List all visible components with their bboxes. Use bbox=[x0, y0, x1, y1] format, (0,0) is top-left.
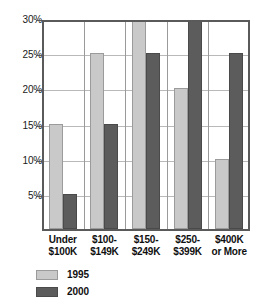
legend-label: 1995 bbox=[67, 270, 89, 280]
bar-1995-1 bbox=[49, 124, 63, 230]
bar-1995-4 bbox=[174, 88, 188, 229]
x-axis-label-line: or More bbox=[204, 246, 254, 258]
legend-swatch-icon bbox=[36, 270, 58, 280]
x-axis-label: $400Kor More bbox=[204, 234, 254, 258]
bars-layer bbox=[44, 22, 248, 229]
bar-2000-5 bbox=[229, 53, 243, 229]
bar-2000-4 bbox=[188, 20, 202, 229]
plot-area bbox=[42, 20, 250, 231]
legend-item-2000: 2000 bbox=[36, 285, 89, 299]
bar-2000-3 bbox=[146, 53, 160, 229]
y-axis: 30%25%20%15%10%5% bbox=[0, 0, 42, 231]
bar-1995-3 bbox=[132, 20, 146, 229]
bar-2000-2 bbox=[104, 124, 118, 230]
legend-label: 2000 bbox=[67, 287, 89, 297]
x-axis-labels: Under$100K$100-$149K$150-$249K$250-$399K… bbox=[42, 234, 250, 264]
bar-chart: 30%25%20%15%10%5% Under$100K$100-$149K$1… bbox=[0, 0, 266, 307]
legend: 19952000 bbox=[36, 268, 89, 302]
bar-1995-2 bbox=[90, 53, 104, 229]
x-axis-label-line: $400K bbox=[204, 234, 254, 246]
bar-1995-5 bbox=[215, 159, 229, 229]
legend-item-1995: 1995 bbox=[36, 268, 89, 282]
bar-2000-1 bbox=[63, 194, 77, 229]
legend-swatch-icon bbox=[36, 287, 58, 297]
